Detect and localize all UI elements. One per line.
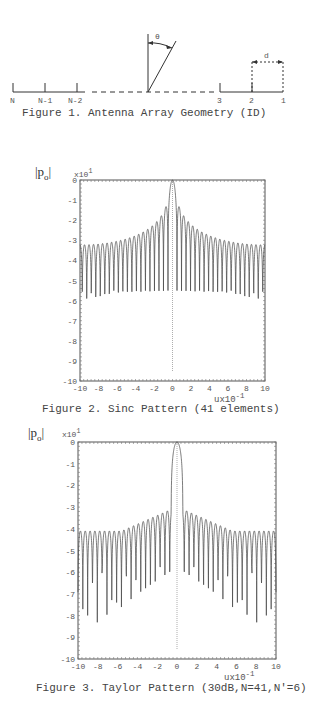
svg-text:2: 2 [194,662,199,671]
svg-text:0: 0 [175,662,180,671]
taylor-pattern-plot: 0-1-2-3-4-5-6-7-8-9-10-10-8-6-4-20246810 [0,0,316,720]
svg-text:-4: -4 [133,662,143,671]
svg-text:-8: -8 [93,662,103,671]
svg-text:-9: -9 [65,633,75,642]
svg-text:-1: -1 [65,460,75,469]
svg-text:-8: -8 [65,612,75,621]
svg-text:-10: -10 [71,662,86,671]
svg-text:-5: -5 [65,547,75,556]
svg-text:10: 10 [271,662,281,671]
figure-3-caption: Figure 3. Taylor Pattern (30dB,N=41,N'=6… [36,682,307,694]
svg-text:-3: -3 [65,503,75,512]
svg-text:-2: -2 [65,481,75,490]
svg-text:4: 4 [214,662,219,671]
svg-text:-6: -6 [65,568,75,577]
svg-text:-6: -6 [113,662,123,671]
svg-text:-4: -4 [65,525,75,534]
svg-text:-7: -7 [65,590,75,599]
svg-text:0: 0 [70,438,75,447]
svg-text:-2: -2 [152,662,162,671]
